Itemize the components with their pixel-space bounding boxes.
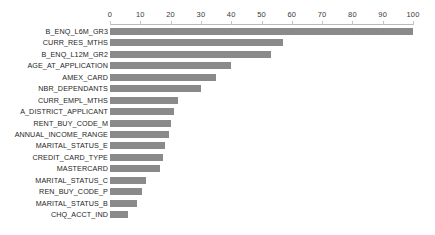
bar-row: CURR_RES_MTHS [0, 38, 435, 49]
x-axis-tick-label: 90 [378, 10, 387, 19]
bar [110, 165, 160, 172]
bar [110, 154, 163, 161]
category-label: REN_BUY_CODE_P [39, 187, 108, 196]
bar-row: REN_BUY_CODE_P [0, 187, 435, 198]
bar [110, 74, 216, 81]
category-label: CHQ_ACCT_IND [51, 210, 108, 219]
category-label: CURR_RES_MTHS [43, 38, 108, 47]
bar-row: RENT_BUY_CODE_M [0, 119, 435, 130]
category-label: MASTERCARD [57, 164, 108, 173]
bar-track [110, 51, 413, 58]
x-axis-tick-label: 0 [108, 10, 112, 19]
x-axis-tick-mark [352, 21, 353, 25]
bar-track [110, 188, 413, 195]
bar-row: NBR_DEPENDANTS [0, 84, 435, 95]
bar-row: MARITAL_STATUS_E [0, 141, 435, 152]
bar-row: CREDIT_CARD_TYPE [0, 153, 435, 164]
x-axis-tick-mark [201, 21, 202, 25]
bar [110, 108, 174, 115]
category-label: MARITAL_STATUS_B [36, 199, 108, 208]
x-axis-tick-label: 30 [197, 10, 206, 19]
category-label: A_DISTRICT_APPLICANT [20, 107, 108, 116]
x-axis-tick-label: 10 [136, 10, 145, 19]
x-axis-tick-label: 80 [348, 10, 357, 19]
bar-row: ANNUAL_INCOME_RANGE [0, 130, 435, 141]
bar [110, 142, 165, 149]
bar-track [110, 142, 413, 149]
x-axis-tick-mark [383, 21, 384, 25]
bar-row: MARITAL_STATUS_C [0, 176, 435, 187]
bar [110, 200, 137, 207]
bar [110, 51, 271, 58]
bar-row: AGE_AT_APPLICATION [0, 61, 435, 72]
bar-row: A_DISTRICT_APPLICANT [0, 107, 435, 118]
x-axis-tick-mark [292, 21, 293, 25]
category-label: AMEX_CARD [62, 73, 108, 82]
bar-chart: 0102030405060708090100 B_ENQ_L6M_GR3CURR… [0, 0, 435, 235]
bar [110, 120, 171, 127]
x-axis-tick-mark [231, 21, 232, 25]
bar-track [110, 154, 413, 161]
category-label: MARITAL_STATUS_E [36, 141, 108, 150]
bar-row: CURR_EMPL_MTHS [0, 96, 435, 107]
category-label: AGE_AT_APPLICATION [27, 61, 108, 70]
bar-track [110, 108, 413, 115]
bar-row: AMEX_CARD [0, 73, 435, 84]
x-axis-tick-mark [140, 21, 141, 25]
bar [110, 62, 231, 69]
x-axis-tick-mark [171, 21, 172, 25]
x-axis-tick-label: 60 [287, 10, 296, 19]
bar [110, 211, 128, 218]
bar-track [110, 39, 413, 46]
x-axis-tick-mark [110, 21, 111, 25]
bar-track [110, 200, 413, 207]
bar-track [110, 131, 413, 138]
category-label: CREDIT_CARD_TYPE [33, 153, 109, 162]
bar-track [110, 74, 413, 81]
x-axis-tick-label: 20 [166, 10, 175, 19]
category-label: NBR_DEPENDANTS [38, 84, 108, 93]
x-axis-tick-mark [413, 21, 414, 25]
x-axis-tick-label: 100 [406, 10, 419, 19]
category-label: MARITAL_STATUS_C [35, 176, 108, 185]
bar [110, 97, 178, 104]
category-label: B_ENQ_L6M_GR3 [46, 27, 108, 36]
bar-track [110, 211, 413, 218]
bar-track [110, 120, 413, 127]
bar-track [110, 177, 413, 184]
x-axis-tick-mark [262, 21, 263, 25]
bar [110, 85, 201, 92]
bar [110, 188, 142, 195]
x-axis-tick-mark [322, 21, 323, 25]
x-axis-tick-label: 50 [257, 10, 266, 19]
bar-rows: B_ENQ_L6M_GR3CURR_RES_MTHSB_ENQ_L12M_GR2… [0, 27, 435, 227]
bar-track [110, 97, 413, 104]
bar-row: CHQ_ACCT_IND [0, 210, 435, 221]
bar-track [110, 165, 413, 172]
bar-row: MASTERCARD [0, 164, 435, 175]
bar-row: B_ENQ_L12M_GR2 [0, 50, 435, 61]
bar [110, 28, 413, 35]
bar-track [110, 85, 413, 92]
x-axis-ticks: 0102030405060708090100 [110, 10, 413, 24]
bar [110, 177, 146, 184]
bar [110, 39, 283, 46]
category-label: RENT_BUY_CODE_M [33, 119, 108, 128]
bar-row: MARITAL_STATUS_B [0, 199, 435, 210]
x-axis-tick-label: 40 [227, 10, 236, 19]
x-axis-tick-label: 70 [318, 10, 327, 19]
bar-track [110, 62, 413, 69]
bar-track [110, 28, 413, 35]
category-label: CURR_EMPL_MTHS [38, 96, 108, 105]
category-label: B_ENQ_L12M_GR2 [41, 50, 108, 59]
category-label: ANNUAL_INCOME_RANGE [15, 130, 108, 139]
bar-row: B_ENQ_L6M_GR3 [0, 27, 435, 38]
bar [110, 131, 169, 138]
